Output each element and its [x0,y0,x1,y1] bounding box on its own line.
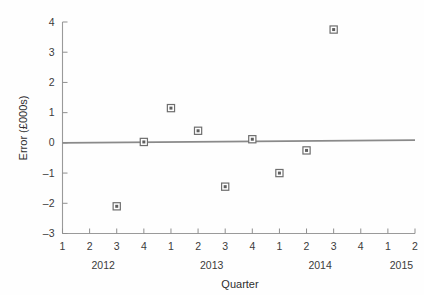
marker-center-dot [305,149,308,152]
x-tick-label: 2 [87,240,93,252]
x-axis-ticks [63,229,416,234]
x-axis-tick-labels: 12341234123412 [60,240,419,252]
y-tick-label: 2 [49,76,55,88]
data-point-marker [113,203,120,210]
marker-center-dot [224,185,227,188]
data-point-markers [113,26,337,210]
x-axis-year-label: 2015 [390,259,414,271]
scatter-chart-figure: 43210–1–2–3 12341234123412 2012201320142… [0,0,424,295]
x-tick-label: 1 [60,240,66,252]
x-axis-year-label: 2012 [91,259,115,271]
marker-center-dot [115,205,118,208]
trend-line [63,140,416,143]
x-tick-label: 1 [168,240,174,252]
x-axis-year-label: 2014 [308,259,332,271]
data-point-marker [194,127,201,134]
y-tick-label: –2 [43,197,55,209]
x-axis-year-labels: 2012201320142015 [91,259,413,271]
y-tick-label: 3 [49,46,55,58]
marker-center-dot [278,172,281,175]
y-tick-label: 0 [49,136,55,148]
data-point-marker [249,136,256,143]
x-tick-label: 2 [304,240,310,252]
y-tick-label: –1 [43,167,55,179]
marker-center-dot [169,107,172,110]
marker-center-dot [142,140,145,143]
chart-canvas: 43210–1–2–3 12341234123412 2012201320142… [0,0,424,295]
x-tick-label: 4 [249,240,255,252]
x-tick-label: 4 [141,240,147,252]
x-tick-label: 3 [222,240,228,252]
data-point-marker [140,138,147,145]
data-point-marker [303,147,310,154]
y-axis-ticks: 43210–1–2–3 [43,16,68,240]
x-tick-label: 1 [385,240,391,252]
x-tick-label: 4 [358,240,364,252]
y-tick-label: 1 [49,106,55,118]
data-point-marker [222,183,229,190]
y-tick-label: 4 [49,16,55,28]
data-point-marker [167,105,174,112]
x-tick-label: 2 [412,240,418,252]
y-axis-title: Error (£000s) [17,96,29,161]
marker-center-dot [251,138,254,141]
x-axis-year-label: 2013 [200,259,224,271]
data-point-marker [276,169,283,176]
marker-center-dot [197,129,200,132]
x-axis-title: Quarter [221,278,259,290]
x-tick-label: 3 [331,240,337,252]
x-tick-label: 1 [277,240,283,252]
y-tick-label: –3 [43,227,55,239]
x-tick-label: 2 [195,240,201,252]
data-point-marker [330,26,337,33]
marker-center-dot [332,28,335,31]
x-tick-label: 3 [114,240,120,252]
